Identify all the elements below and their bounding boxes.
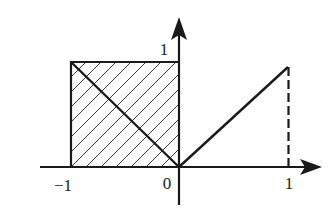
- label-x-one: 1: [285, 174, 294, 193]
- function-graph-figure: −1 0 1 1: [0, 0, 330, 210]
- label-x-neg-one: −1: [54, 176, 72, 195]
- segment-right: [179, 67, 288, 167]
- hatch-pattern: [0, 62, 281, 167]
- label-origin: 0: [163, 174, 172, 193]
- label-y-one: 1: [160, 40, 169, 59]
